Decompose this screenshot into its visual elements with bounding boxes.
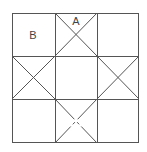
label-b: B — [29, 30, 36, 41]
quilt-block-diagram: A B — [0, 0, 147, 152]
label-a: A — [72, 16, 79, 27]
